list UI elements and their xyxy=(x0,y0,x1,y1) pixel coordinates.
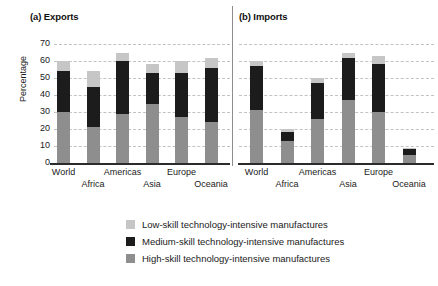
x-tick-label-africa: Africa xyxy=(67,179,119,189)
x-tick-label-world: World xyxy=(231,167,283,177)
bar-imports-europe xyxy=(372,44,385,163)
bar-segment xyxy=(116,61,129,114)
bar-segment xyxy=(146,104,159,164)
legend-swatch-icon xyxy=(126,237,135,246)
legend-item-high-skill: High-skill technology-intensive manufact… xyxy=(126,250,344,267)
bar-segment xyxy=(403,149,416,154)
bar-segment xyxy=(175,117,188,163)
legend-label: High-skill technology-intensive manufact… xyxy=(142,253,330,264)
bar-segment xyxy=(250,110,263,163)
bar-segment xyxy=(87,71,100,86)
bar-imports-oceania xyxy=(403,44,416,163)
x-tick-label-asia: Asia xyxy=(322,179,374,189)
bar-segment xyxy=(342,58,355,101)
bar-segment xyxy=(372,56,385,65)
x-tick-label-americas: Americas xyxy=(292,167,344,177)
bar-exports-world xyxy=(57,44,70,163)
panel-divider xyxy=(232,6,233,166)
panel-title-imports: (b) Imports xyxy=(239,11,288,22)
y-tick-label: 40 xyxy=(28,90,50,99)
y-tick-label: 20 xyxy=(28,124,50,133)
bar-segment xyxy=(57,71,70,112)
bar-segment xyxy=(250,61,263,66)
bar-segment xyxy=(311,119,324,163)
stacked-bar-chart-figure: (a) Exports (b) Imports Percentage 70605… xyxy=(0,0,438,286)
bar-segment xyxy=(281,132,294,141)
x-tick-label-americas: Americas xyxy=(97,167,149,177)
y-tick-label: 70 xyxy=(28,39,50,48)
x-tick-label-oceania: Oceania xyxy=(383,179,435,189)
x-tick-label-europe: Europe xyxy=(353,167,405,177)
bar-segment xyxy=(205,68,218,122)
bar-segment xyxy=(311,78,324,83)
bar-segment xyxy=(87,127,100,163)
legend-item-low-skill: Low-skill technology-intensive manufactu… xyxy=(126,216,344,233)
bar-segment xyxy=(146,64,159,73)
bar-segment xyxy=(311,83,324,119)
bar-segment xyxy=(116,53,129,62)
bar-segment xyxy=(87,87,100,128)
bar-imports-asia xyxy=(342,44,355,163)
x-axis-line-exports xyxy=(50,163,230,165)
x-tick-label-world: World xyxy=(38,167,90,177)
bar-segment xyxy=(205,122,218,163)
bar-imports-americas xyxy=(311,44,324,163)
y-tick-label: 10 xyxy=(28,141,50,150)
bar-segment xyxy=(205,58,218,68)
bar-segment xyxy=(281,141,294,163)
bar-segment xyxy=(250,66,263,110)
x-tick-label-oceania: Oceania xyxy=(185,179,237,189)
panel-title-exports: (a) Exports xyxy=(30,11,79,22)
x-tick-label-asia: Asia xyxy=(126,179,178,189)
bar-segment xyxy=(146,73,159,104)
legend-swatch-icon xyxy=(126,220,135,229)
y-tick-label: 60 xyxy=(28,56,50,65)
legend-item-medium-skill: Medium-skill technology-intensive manufa… xyxy=(126,233,344,250)
y-tick-label: 30 xyxy=(28,107,50,116)
plot-area-imports xyxy=(238,44,434,163)
bar-segment xyxy=(372,64,385,112)
bar-exports-europe xyxy=(175,44,188,163)
x-axis-line-imports xyxy=(238,163,434,165)
chart-legend: Low-skill technology-intensive manufactu… xyxy=(126,216,344,267)
bar-exports-africa xyxy=(87,44,100,163)
bar-segment xyxy=(175,61,188,73)
bar-segment xyxy=(372,112,385,163)
bar-imports-africa xyxy=(281,44,294,163)
y-axis-label: Percentage xyxy=(18,34,28,124)
x-tick-label-africa: Africa xyxy=(261,179,313,189)
bar-segment xyxy=(403,148,416,150)
x-tick-label-europe: Europe xyxy=(156,167,208,177)
bar-imports-world xyxy=(250,44,263,163)
bar-segment xyxy=(403,155,416,164)
bar-segment xyxy=(342,100,355,163)
bar-exports-americas xyxy=(116,44,129,163)
bar-segment xyxy=(281,129,294,132)
bar-segment xyxy=(57,61,70,71)
y-tick-label: 50 xyxy=(28,73,50,82)
legend-swatch-icon xyxy=(126,254,135,263)
bar-segment xyxy=(342,53,355,58)
bar-exports-asia xyxy=(146,44,159,163)
bar-exports-oceania xyxy=(205,44,218,163)
legend-label: Medium-skill technology-intensive manufa… xyxy=(142,236,344,247)
plot-area-exports xyxy=(50,44,230,163)
y-tick-label: 0 xyxy=(28,158,50,167)
bar-segment xyxy=(57,112,70,163)
bar-segment xyxy=(116,114,129,163)
bar-segment xyxy=(175,73,188,117)
legend-label: Low-skill technology-intensive manufactu… xyxy=(142,219,328,230)
